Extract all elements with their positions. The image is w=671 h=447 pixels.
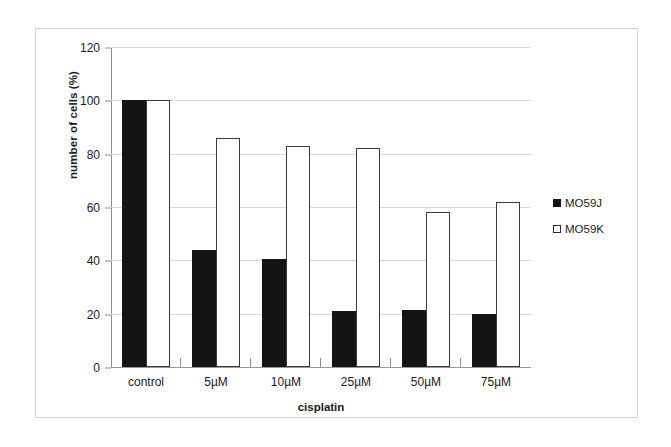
- filled-square-marker: [553, 199, 561, 207]
- bar-chart-figure: number of cells (%) 020406080100120 cont…: [35, 28, 638, 418]
- x-axis-tick-labels: control5µM10µM25µM50µM75µM: [111, 375, 531, 389]
- x-axis-tick-label: 10µM: [251, 375, 321, 389]
- bar-mo59j-4[interactable]: [402, 310, 426, 367]
- x-axis-tick-label: 5µM: [181, 375, 251, 389]
- y-axis-tick-label: 100: [80, 94, 100, 108]
- bar-group: [181, 47, 251, 367]
- y-axis-tick-label: 120: [80, 41, 100, 55]
- legend-label: MO59K: [565, 223, 604, 235]
- bar-mo59k-5[interactable]: [496, 202, 520, 367]
- bar-mo59k-4[interactable]: [426, 212, 450, 367]
- y-axis-tick-label: 40: [87, 254, 100, 268]
- x-axis-title: cisplatin: [111, 401, 531, 413]
- bar-mo59j-2[interactable]: [262, 259, 286, 367]
- bar-mo59k-1[interactable]: [216, 138, 240, 367]
- y-axis-tick-label: 60: [87, 201, 100, 215]
- legend-item[interactable]: MO59K: [553, 223, 643, 235]
- y-axis-tick-label: 80: [87, 148, 100, 162]
- bar-group: [391, 47, 461, 367]
- y-axis-tick-label: 0: [93, 361, 100, 375]
- chart-legend: MO59JMO59K: [553, 197, 643, 249]
- y-axis-tick-label: 20: [87, 308, 100, 322]
- bar-mo59j-3[interactable]: [332, 311, 356, 367]
- y-axis-title: number of cells (%): [67, 40, 79, 210]
- bar-mo59j-0[interactable]: [122, 100, 146, 367]
- x-axis-tick-label: 75µM: [461, 375, 531, 389]
- bar-group: [461, 47, 531, 367]
- legend-item[interactable]: MO59J: [553, 197, 643, 209]
- x-axis-tick-label: 50µM: [391, 375, 461, 389]
- bar-mo59k-0[interactable]: [146, 100, 170, 367]
- bar-group: [111, 47, 181, 367]
- bar-mo59j-1[interactable]: [192, 250, 216, 367]
- bar-mo59k-3[interactable]: [356, 148, 380, 367]
- hollow-square-marker: [553, 225, 561, 233]
- x-axis-tick-label: control: [111, 375, 181, 389]
- bar-mo59j-5[interactable]: [472, 314, 496, 367]
- y-gridline: 0: [111, 367, 531, 368]
- plot-area: 020406080100120: [111, 47, 531, 367]
- bar-mo59k-2[interactable]: [286, 146, 310, 367]
- x-axis-tick-label: 25µM: [321, 375, 391, 389]
- legend-label: MO59J: [565, 197, 602, 209]
- bar-group: [251, 47, 321, 367]
- y-axis-tick-mark: [105, 368, 111, 369]
- bars-layer: [111, 47, 531, 367]
- bar-group: [321, 47, 391, 367]
